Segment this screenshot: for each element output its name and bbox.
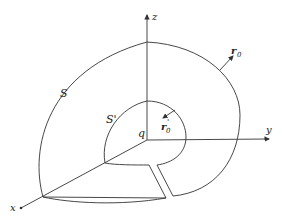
outer-normal-arrow [220,56,233,70]
diagram-canvas: z y x S S' q r 0 r 0 ' [0,0,282,223]
cut-channel [149,165,173,198]
charge-label: q [138,127,145,140]
inner-surface-label: S' [106,113,117,126]
y-axis [147,139,269,140]
outer-surface-s [39,42,240,203]
surface-diagram: z y x S S' q r 0 r 0 ' [0,0,282,223]
x-axis-label: x [10,202,16,213]
inner-normal-subscript: 0 [166,127,171,135]
z-axis-label: z [151,11,158,22]
x-axis-end-dot [20,207,23,210]
outer-surface-label: S [60,87,68,100]
outer-normal-subscript: 0 [237,51,242,59]
y-axis-label: y [265,124,272,135]
inner-normal-prime: ' [167,117,169,126]
